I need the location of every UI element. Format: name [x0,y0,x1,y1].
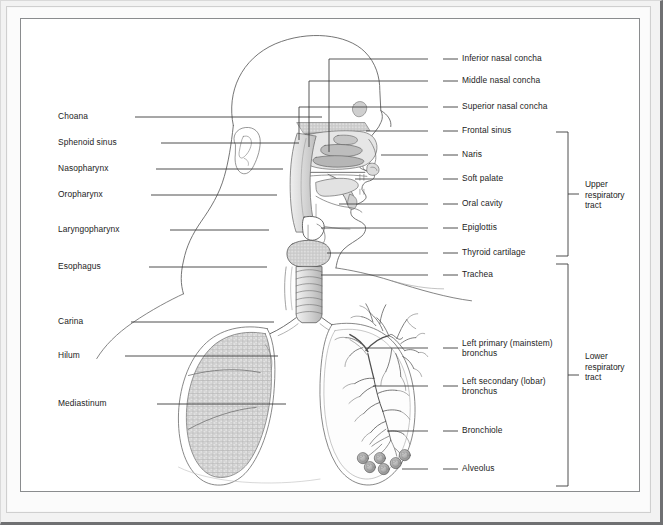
respiratory-anatomy-figure: ChoanaSphenoid sinusNasopharynxOropharyn… [0,0,663,525]
label-carina: Carina [58,316,83,326]
label-alveolus: Alveolus [462,463,494,473]
label-left-secondary-bronchus: Left secondary (lobar) bronchus [462,376,546,397]
label-thyroid-cartilage: Thyroid cartilage [462,247,526,257]
label-superior-nasal-concha: Superior nasal concha [462,101,547,111]
label-frontal-sinus: Frontal sinus [462,125,511,135]
bracket-upper-respiratory-tract [556,132,568,256]
label-bronchiole: Bronchiole [462,425,503,435]
label-nasopharynx: Nasopharynx [58,163,108,173]
label-sphenoid-sinus: Sphenoid sinus [58,137,117,147]
label-choana: Choana [58,111,88,121]
label-hilum: Hilum [58,350,80,360]
label-oropharynx: Oropharynx [58,189,103,199]
label-trachea: Trachea [462,269,493,279]
label-laryngopharynx: Laryngopharynx [58,224,119,234]
figure-plate: ChoanaSphenoid sinusNasopharynxOropharyn… [20,18,640,492]
label-oral-cavity: Oral cavity [462,198,503,208]
label-upper-respiratory-tract: Upper respiratory tract [585,179,625,211]
leader-lines [21,19,640,492]
label-naris: Naris [462,149,482,159]
label-left-primary-bronchus: Left primary (mainstem) bronchus [462,338,553,359]
label-inferior-nasal-concha: Inferior nasal concha [462,53,542,63]
label-esophagus: Esophagus [58,261,101,271]
label-middle-nasal-concha: Middle nasal concha [462,75,540,85]
label-soft-palate: Soft palate [462,173,503,183]
label-epiglottis: Epiglottis [462,222,497,232]
label-lower-respiratory-tract: Lower respiratory tract [585,351,625,383]
bracket-lower-respiratory-tract [556,264,568,486]
label-mediastinum: Mediastinum [58,398,107,408]
